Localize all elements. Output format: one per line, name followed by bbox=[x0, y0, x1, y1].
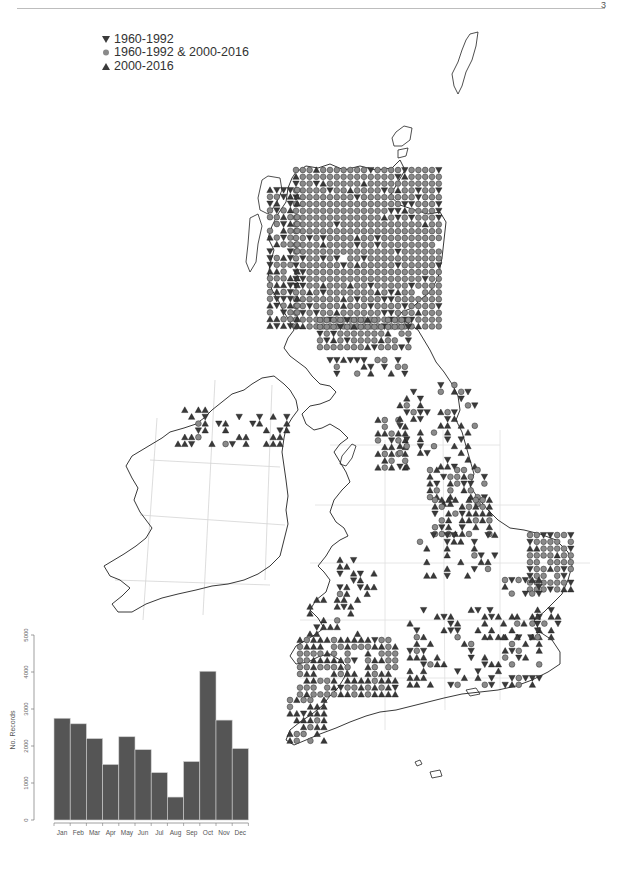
histogram-y-axis: 010002000300040005000 bbox=[23, 628, 34, 822]
bar-apr bbox=[103, 765, 119, 821]
svg-text:Sep: Sep bbox=[186, 829, 198, 837]
svg-text:1000: 1000 bbox=[23, 776, 29, 790]
shetland-coastline bbox=[452, 32, 478, 94]
bar-jul bbox=[151, 773, 167, 820]
svg-text:Dec: Dec bbox=[235, 829, 247, 836]
histogram-bars bbox=[54, 671, 248, 820]
svg-text:4000: 4000 bbox=[23, 665, 29, 679]
svg-text:3000: 3000 bbox=[23, 702, 29, 716]
histogram-x-labels: JanFebMarAprMayJunJulAugSepOctNovDec bbox=[54, 823, 248, 837]
svg-text:Jun: Jun bbox=[138, 829, 149, 836]
bar-mar bbox=[86, 739, 102, 820]
bar-dec bbox=[232, 749, 248, 820]
svg-text:Aug: Aug bbox=[170, 829, 182, 837]
monthly-records-histogram: 010002000300040005000 JanFebMarAprMayJun… bbox=[0, 600, 260, 873]
channel-islands-coastline bbox=[415, 760, 442, 778]
svg-text:Apr: Apr bbox=[106, 829, 117, 837]
bar-jan bbox=[54, 718, 70, 820]
bar-nov bbox=[216, 720, 232, 820]
bar-oct bbox=[200, 671, 216, 820]
bar-may bbox=[119, 737, 135, 820]
svg-text:2000: 2000 bbox=[23, 739, 29, 753]
isle-of-man-coastline bbox=[340, 444, 356, 466]
svg-text:Mar: Mar bbox=[89, 829, 101, 836]
orkney-coastline bbox=[392, 126, 412, 158]
bar-jun bbox=[135, 750, 151, 820]
svg-text:Feb: Feb bbox=[73, 829, 85, 836]
bar-sep bbox=[184, 762, 200, 820]
svg-text:May: May bbox=[121, 829, 134, 837]
svg-text:Jul: Jul bbox=[155, 829, 164, 836]
svg-text:5000: 5000 bbox=[23, 628, 29, 642]
svg-text:Jan: Jan bbox=[57, 829, 68, 836]
svg-text:Nov: Nov bbox=[218, 829, 230, 836]
bar-feb bbox=[70, 724, 86, 820]
svg-text:0: 0 bbox=[23, 818, 29, 822]
histogram-y-label: No. Records bbox=[9, 710, 16, 749]
bar-aug bbox=[167, 797, 183, 820]
svg-text:Oct: Oct bbox=[203, 829, 213, 836]
